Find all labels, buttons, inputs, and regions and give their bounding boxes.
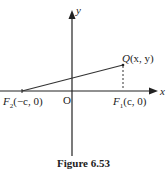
origin-label: O	[63, 95, 71, 106]
point-q-label: Q(x, y)	[122, 53, 154, 64]
q-coords: (x, y)	[130, 52, 154, 64]
f1-coords: (c, 0)	[123, 95, 146, 107]
f2-name: F	[3, 95, 10, 107]
point-f1-label: F1(c, 0)	[113, 96, 146, 110]
figure-caption: Figure 6.53	[0, 157, 167, 169]
x-axis-label: x	[160, 86, 165, 97]
q-name: Q	[122, 52, 130, 64]
point-f2-label: F2(−c, 0)	[3, 96, 43, 110]
f2-coords: (−c, 0)	[13, 95, 42, 107]
y-axis-arrow-icon	[69, 10, 76, 19]
y-axis-label: y	[76, 5, 81, 16]
diagram-canvas	[0, 0, 167, 171]
f1-name: F	[113, 95, 120, 107]
x-axis-arrow-icon	[149, 88, 158, 95]
point-q	[122, 64, 125, 67]
